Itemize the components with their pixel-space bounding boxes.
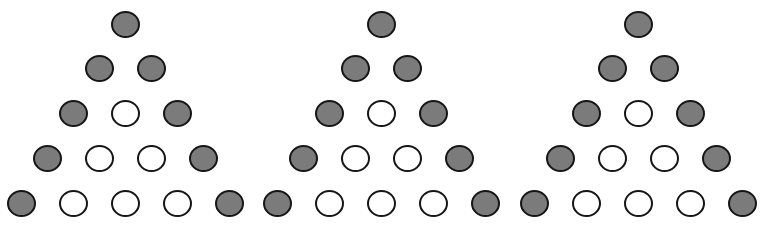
filled-circle-icon bbox=[315, 100, 344, 127]
empty-circle-icon bbox=[650, 145, 679, 172]
filled-circle-icon bbox=[111, 11, 140, 38]
empty-circle-icon bbox=[624, 100, 653, 127]
filled-circle-icon bbox=[367, 11, 396, 38]
filled-circle-icon bbox=[85, 55, 114, 82]
empty-circle-icon bbox=[367, 100, 396, 127]
empty-circle-icon bbox=[393, 145, 422, 172]
filled-circle-icon bbox=[341, 55, 370, 82]
filled-circle-icon bbox=[650, 55, 679, 82]
filled-circle-icon bbox=[33, 145, 62, 172]
empty-circle-icon bbox=[111, 190, 140, 217]
empty-circle-icon bbox=[315, 190, 344, 217]
filled-circle-icon bbox=[393, 55, 422, 82]
filled-circle-icon bbox=[189, 145, 218, 172]
empty-circle-icon bbox=[598, 145, 627, 172]
filled-circle-icon bbox=[163, 100, 192, 127]
filled-circle-icon bbox=[546, 145, 575, 172]
filled-circle-icon bbox=[215, 190, 244, 217]
filled-circle-icon bbox=[59, 100, 88, 127]
filled-circle-icon bbox=[598, 55, 627, 82]
empty-circle-icon bbox=[59, 190, 88, 217]
empty-circle-icon bbox=[367, 190, 396, 217]
empty-circle-icon bbox=[111, 100, 140, 127]
filled-circle-icon bbox=[137, 55, 166, 82]
filled-circle-icon bbox=[624, 11, 653, 38]
filled-circle-icon bbox=[419, 100, 448, 127]
filled-circle-icon bbox=[728, 190, 757, 217]
empty-circle-icon bbox=[163, 190, 192, 217]
filled-circle-icon bbox=[676, 100, 705, 127]
filled-circle-icon bbox=[7, 190, 36, 217]
filled-circle-icon bbox=[263, 190, 292, 217]
empty-circle-icon bbox=[85, 145, 114, 172]
filled-circle-icon bbox=[289, 145, 318, 172]
filled-circle-icon bbox=[572, 100, 601, 127]
empty-circle-icon bbox=[137, 145, 166, 172]
filled-circle-icon bbox=[471, 190, 500, 217]
empty-circle-icon bbox=[676, 190, 705, 217]
filled-circle-icon bbox=[702, 145, 731, 172]
empty-circle-icon bbox=[624, 190, 653, 217]
empty-circle-icon bbox=[341, 145, 370, 172]
filled-circle-icon bbox=[520, 190, 549, 217]
empty-circle-icon bbox=[419, 190, 448, 217]
empty-circle-icon bbox=[572, 190, 601, 217]
filled-circle-icon bbox=[445, 145, 474, 172]
